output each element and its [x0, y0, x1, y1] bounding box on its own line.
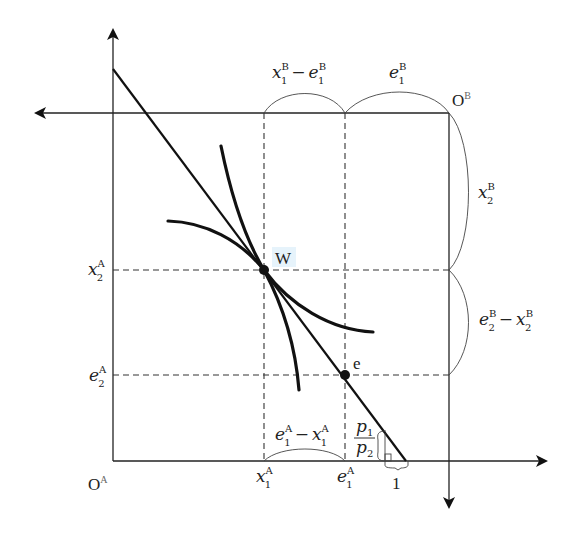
- bottom-label-e1A-minus-x1A: eA1−xA1: [275, 423, 330, 448]
- point-w: [259, 265, 269, 275]
- origin-a-label: OA: [88, 474, 108, 494]
- top-label-x1B-minus-e1B: xB1−eB1: [272, 61, 326, 86]
- top-brace-left: [264, 94, 345, 114]
- edgeworth-box-diagram: W e OA OB xB1−eB1 eB1 xB2 eB2−xB2 xA2 eA…: [0, 0, 575, 534]
- point-e-label: e: [353, 354, 361, 373]
- slope-label: p1: [356, 416, 373, 438]
- bottom-brace: [264, 449, 345, 461]
- point-w-label: W: [275, 249, 292, 268]
- right-angle-marker: [385, 454, 391, 461]
- slope-label-denominator: p2: [356, 437, 373, 459]
- right-label-x2B: xB2: [478, 181, 495, 206]
- origin-b-label: OB: [452, 90, 471, 110]
- top-brace-right: [345, 92, 449, 113]
- bottom-label-e1A: eA1: [337, 465, 355, 490]
- unit-label: 1: [392, 474, 401, 493]
- right-brace-lower: [449, 270, 469, 375]
- top-label-e1B: eB1: [389, 61, 406, 86]
- left-label-e2A: eA2: [89, 364, 107, 389]
- right-brace-upper: [449, 113, 469, 270]
- bottom-label-x1A: xA1: [256, 465, 274, 490]
- right-label-e2B-minus-x2B: eB2−xB2: [479, 308, 533, 333]
- point-e: [340, 370, 350, 380]
- slope-horizontal-brace: [385, 461, 408, 470]
- left-label-x2A: xA2: [88, 258, 106, 283]
- indifference-curve-a: [168, 221, 373, 332]
